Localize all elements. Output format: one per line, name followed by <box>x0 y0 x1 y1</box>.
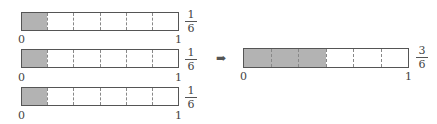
unshaded-part <box>100 88 126 105</box>
bar-3-end-label: 1 <box>175 110 182 121</box>
unshaded-part <box>126 88 152 105</box>
numerator: 1 <box>184 47 198 59</box>
shaded-part <box>298 49 326 67</box>
unshaded-part <box>381 49 409 67</box>
shaded-part <box>244 49 271 67</box>
result-fraction-bar <box>243 48 409 68</box>
unshaded-part <box>152 88 178 105</box>
bar-1-start-label: 0 <box>18 34 25 45</box>
denominator: 6 <box>184 60 198 72</box>
unshaded-part <box>47 13 73 30</box>
bar-1-end-label: 1 <box>175 34 182 45</box>
unshaded-part <box>73 88 99 105</box>
denominator: 6 <box>184 22 198 34</box>
result-fraction: 3 6 <box>415 45 429 70</box>
unshaded-part <box>73 50 99 67</box>
denominator: 6 <box>184 98 198 110</box>
bar-2-end-label: 1 <box>175 72 182 83</box>
bar-1-fraction: 1 6 <box>184 9 198 34</box>
unshaded-part <box>47 50 73 67</box>
unshaded-part <box>100 50 126 67</box>
unshaded-part <box>126 13 152 30</box>
result-start-label: 0 <box>240 71 247 82</box>
bar-2-start-label: 0 <box>18 72 25 83</box>
numerator: 1 <box>184 85 198 97</box>
bar-3-fraction: 1 6 <box>184 85 198 110</box>
result-end-label: 1 <box>405 71 412 82</box>
bar-2-fraction: 1 6 <box>184 47 198 72</box>
unshaded-part <box>73 13 99 30</box>
unshaded-part <box>126 50 152 67</box>
fraction-bar-2 <box>21 49 179 68</box>
unshaded-part <box>326 49 354 67</box>
fraction-bar-3 <box>21 87 179 106</box>
unshaded-part <box>47 88 73 105</box>
unshaded-part <box>152 50 178 67</box>
unshaded-part <box>152 13 178 30</box>
shaded-part <box>271 49 299 67</box>
shaded-part <box>22 50 47 67</box>
numerator: 1 <box>184 9 198 21</box>
numerator: 3 <box>415 45 429 57</box>
denominator: 6 <box>415 58 429 70</box>
shaded-part <box>22 88 47 105</box>
bar-3-start-label: 0 <box>18 110 25 121</box>
unshaded-part <box>100 13 126 30</box>
right-arrow-icon: ➡ <box>216 51 226 65</box>
fraction-bar-1 <box>21 12 179 31</box>
shaded-part <box>22 13 47 30</box>
unshaded-part <box>353 49 381 67</box>
